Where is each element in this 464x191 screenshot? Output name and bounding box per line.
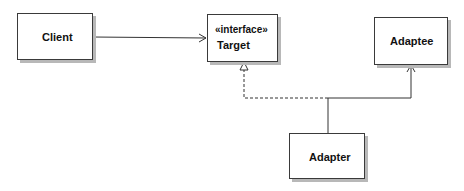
class-target[interactable]: «interface» Target [207, 14, 278, 62]
class-adaptee[interactable]: Adaptee [374, 17, 448, 65]
class-stereotype: «interface» [215, 24, 268, 35]
class-name: Adapter [309, 151, 351, 163]
class-adapter[interactable]: Adapter [289, 133, 365, 179]
hollow-triangle-icon [240, 62, 248, 70]
adapter-target-realization [240, 62, 328, 98]
class-name: Client [42, 31, 73, 43]
client-target-association [93, 34, 206, 42]
class-name: Target [217, 39, 250, 51]
class-name: Adaptee [390, 35, 433, 47]
adapter-adaptee-association [328, 65, 415, 133]
class-client[interactable]: Client [17, 13, 93, 60]
